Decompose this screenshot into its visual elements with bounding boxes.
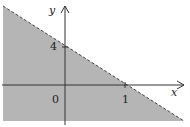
x-tick-label: 1	[122, 93, 129, 106]
graph-canvas: y 4 0 1 x	[0, 0, 190, 127]
inequality-graph: y 4 0 1 x	[0, 0, 190, 127]
y-tick-label: 4	[50, 40, 57, 53]
x-axis-label: x	[171, 86, 178, 99]
origin-label: 0	[52, 93, 59, 106]
y-axis-label: y	[48, 4, 56, 17]
